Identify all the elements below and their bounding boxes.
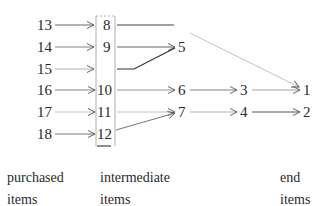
column-label-purchased: purchased items xyxy=(7,167,64,206)
column-label-intermediate-line1: intermediate xyxy=(100,167,170,189)
node-2: 2 xyxy=(303,104,311,120)
node-5: 5 xyxy=(178,39,186,55)
edge-box-5 xyxy=(117,48,175,69)
node-16: 16 xyxy=(37,82,53,98)
edge-12-7 xyxy=(116,113,175,130)
node-13: 13 xyxy=(37,17,52,33)
column-label-purchased-line2: items xyxy=(7,189,64,206)
node-15: 15 xyxy=(37,61,52,77)
node-12: 12 xyxy=(97,126,112,142)
node-3: 3 xyxy=(240,82,248,98)
column-label-end-line1: end xyxy=(280,167,310,189)
node-10: 10 xyxy=(97,82,112,98)
column-label-end-line2: items xyxy=(280,189,310,206)
column-label-purchased-line1: purchased xyxy=(7,167,64,189)
node-7: 7 xyxy=(178,104,186,120)
edges-intermediate xyxy=(116,25,300,130)
edges-purchased-to-intermediate xyxy=(55,25,95,134)
node-11: 11 xyxy=(97,104,111,120)
column-label-intermediate-line2: items xyxy=(100,189,170,206)
node-14: 14 xyxy=(37,39,53,55)
node-9: 9 xyxy=(103,39,111,55)
node-4: 4 xyxy=(240,104,248,120)
column-label-end: end items xyxy=(280,167,310,206)
column-label-intermediate: intermediate items xyxy=(100,167,170,206)
node-1: 1 xyxy=(303,82,311,98)
node-8: 8 xyxy=(103,17,111,33)
node-17: 17 xyxy=(37,104,53,120)
nodes: 13 14 15 16 17 18 8 9 10 11 12 5 6 7 3 4… xyxy=(37,17,311,142)
node-18: 18 xyxy=(37,126,52,142)
edge-8-1 xyxy=(190,33,299,87)
node-6: 6 xyxy=(178,82,186,98)
